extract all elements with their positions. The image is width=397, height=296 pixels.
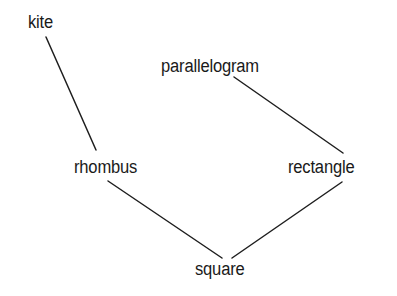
node-parallelogram: parallelogram — [161, 56, 259, 76]
edge-kite-rhombus — [46, 37, 96, 150]
quadrilateral-hierarchy-diagram: kite parallelogram rhombus rectangle squ… — [0, 0, 397, 296]
edge-parallelogram-rectangle — [234, 77, 343, 153]
diagram-edges — [0, 0, 397, 296]
node-kite: kite — [28, 12, 53, 32]
node-rectangle: rectangle — [288, 157, 354, 177]
node-rhombus: rhombus — [74, 157, 137, 177]
edge-rectangle-square — [232, 182, 342, 258]
edge-rhombus-square — [108, 181, 222, 258]
node-square: square — [195, 259, 245, 279]
